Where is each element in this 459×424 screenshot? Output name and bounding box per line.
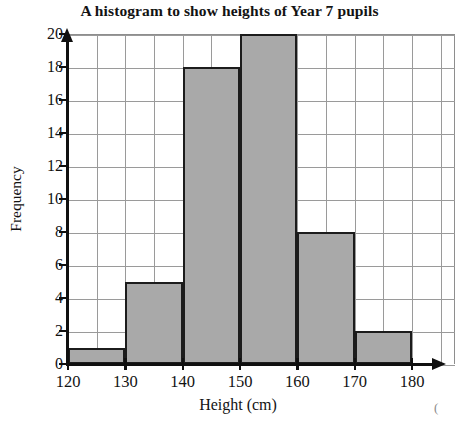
y-axis-tick-label: 18 xyxy=(23,59,63,75)
bars-layer xyxy=(68,34,455,364)
y-axis-title: Frequency xyxy=(7,139,25,259)
x-axis-tick xyxy=(182,358,184,370)
x-axis-tick-label: 170 xyxy=(325,372,385,392)
stray-mark: ( xyxy=(434,400,438,416)
x-axis-tick xyxy=(67,358,69,370)
histogram-bar xyxy=(125,282,182,365)
x-axis-tick xyxy=(296,358,298,370)
x-axis-tick-label: 160 xyxy=(267,372,327,392)
y-axis-tick-label: 12 xyxy=(23,158,63,174)
y-axis-tick-label: 0 xyxy=(23,356,63,372)
x-axis-tick-label: 120 xyxy=(38,372,98,392)
x-axis-tick-label: 140 xyxy=(153,372,213,392)
y-axis-tick-label: 4 xyxy=(23,290,63,306)
histogram-bar xyxy=(68,348,125,365)
x-axis-arrow-icon xyxy=(432,358,446,370)
x-axis-tick xyxy=(411,358,413,370)
x-axis-title: Height (cm) xyxy=(68,396,408,414)
histogram-bar xyxy=(355,331,412,364)
histogram-bar xyxy=(240,34,297,364)
y-axis-tick-label: 16 xyxy=(23,92,63,108)
y-axis-tick-label: 14 xyxy=(23,125,63,141)
x-axis-tick xyxy=(124,358,126,370)
y-axis-line xyxy=(66,40,69,366)
y-axis-tick-label: 2 xyxy=(23,323,63,339)
x-axis-tick-label: 180 xyxy=(382,372,442,392)
y-axis-tick-label: 8 xyxy=(23,224,63,240)
x-axis-tick xyxy=(354,358,356,370)
y-axis-tick-label: 10 xyxy=(23,191,63,207)
histogram-bar xyxy=(183,67,240,364)
x-axis-tick xyxy=(239,358,241,370)
y-axis-tick-label: 6 xyxy=(23,257,63,273)
histogram-chart: A histogram to show heights of Year 7 pu… xyxy=(0,0,459,424)
y-axis-tick-label: 20 xyxy=(23,26,63,42)
x-axis-line xyxy=(66,363,434,366)
histogram-bar xyxy=(297,232,354,364)
x-axis-tick-label: 150 xyxy=(210,372,270,392)
chart-title: A histogram to show heights of Year 7 pu… xyxy=(0,2,459,20)
x-axis-tick-label: 130 xyxy=(95,372,155,392)
